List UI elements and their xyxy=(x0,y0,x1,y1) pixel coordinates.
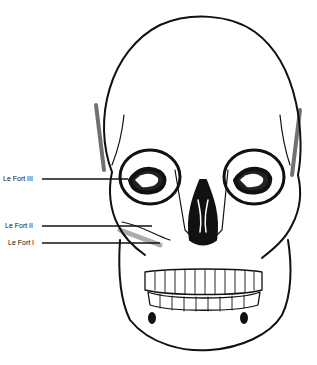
skull-illustration xyxy=(0,0,317,365)
nasal-cavity xyxy=(189,180,217,245)
upper-teeth xyxy=(145,269,262,295)
label-le-fort-ii: Le Fort II xyxy=(5,222,33,229)
label-le-fort-iii: Le Fort III xyxy=(3,175,33,182)
label-le-fort-i: Le Fort I xyxy=(8,239,34,246)
cranium-outline xyxy=(104,17,301,175)
